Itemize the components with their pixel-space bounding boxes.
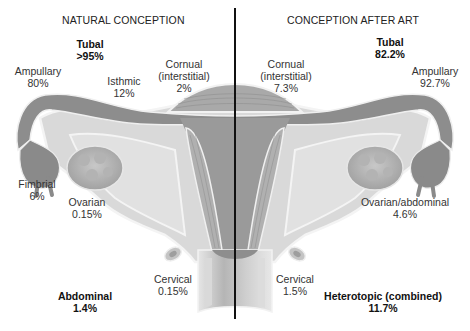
site-pct: 6%	[12, 190, 62, 202]
label-abdominal-natural: Abdominal 1.4%	[55, 290, 115, 314]
left-panel-title: NATURAL CONCEPTION	[62, 14, 185, 26]
site-name: Cornual	[152, 58, 216, 70]
site-name: Cervical	[272, 273, 318, 285]
site-pct: 4.6%	[355, 208, 455, 220]
site-name-2: (interstitial)	[254, 70, 318, 82]
site-name: Ampullary	[405, 65, 465, 77]
label-ampullary-art: Ampullary 92.7%	[405, 65, 465, 89]
site-pct: 12%	[102, 87, 146, 99]
label-heterotopic-art: Heterotopic (combined) 11.7%	[318, 290, 448, 314]
ectopic-pregnancy-diagram: NATURAL CONCEPTION Tubal >95% Ampullary …	[0, 0, 470, 331]
label-tubal-art: Tubal 82.2%	[365, 36, 415, 60]
site-pct: >95%	[68, 50, 112, 62]
label-cervical-natural: Cervical 0.15%	[150, 273, 196, 297]
site-pct: 0.15%	[64, 208, 110, 220]
label-ampullary-natural: Ampullary 80%	[10, 65, 66, 89]
site-pct: 1.4%	[55, 302, 115, 314]
site-name: Ampullary	[10, 65, 66, 77]
label-tubal-natural: Tubal >95%	[68, 38, 112, 62]
label-ovarian-natural: Ovarian 0.15%	[64, 196, 110, 220]
site-name: Ovarian/abdominal	[355, 196, 455, 208]
panel-divider	[234, 8, 236, 319]
site-name: Fimbrial	[12, 178, 62, 190]
label-fimbrial-natural: Fimbrial 6%	[12, 178, 62, 202]
site-name: Tubal	[365, 36, 415, 48]
label-cornual-natural: Cornual (interstitial) 2%	[152, 58, 216, 94]
site-pct: 82.2%	[365, 48, 415, 60]
site-pct: 1.5%	[272, 285, 318, 297]
label-ovarian-abdominal-art: Ovarian/abdominal 4.6%	[355, 196, 455, 220]
site-pct: 0.15%	[150, 285, 196, 297]
right-panel-title: CONCEPTION AFTER ART	[287, 14, 419, 26]
site-pct: 11.7%	[318, 302, 448, 314]
site-name: Abdominal	[55, 290, 115, 302]
site-name: Cornual	[254, 58, 318, 70]
site-pct: 2%	[152, 82, 216, 94]
site-pct: 92.7%	[405, 77, 465, 89]
site-name: Heterotopic (combined)	[318, 290, 448, 302]
label-cornual-art: Cornual (interstitial) 7.3%	[254, 58, 318, 94]
label-isthmic-natural: Isthmic 12%	[102, 75, 146, 99]
site-pct: 7.3%	[254, 82, 318, 94]
site-name: Cervical	[150, 273, 196, 285]
site-name: Isthmic	[102, 75, 146, 87]
site-name-2: (interstitial)	[152, 70, 216, 82]
label-cervical-art: Cervical 1.5%	[272, 273, 318, 297]
site-name: Tubal	[68, 38, 112, 50]
site-name: Ovarian	[64, 196, 110, 208]
site-pct: 80%	[10, 77, 66, 89]
